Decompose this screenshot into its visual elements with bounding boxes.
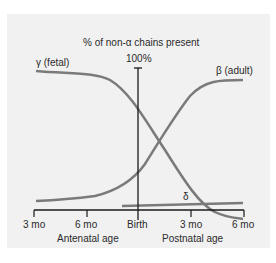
chart-title: % of non-α chains present xyxy=(83,37,199,48)
beta-label: β (adult) xyxy=(216,65,253,76)
tick-label-6mo-post: 6 mo xyxy=(232,219,254,230)
beta-curve xyxy=(36,80,243,201)
antenatal-group-label: Antenatal age xyxy=(57,233,119,244)
y-top-label: 100% xyxy=(126,53,152,64)
tick-label-6mo-ante: 6 mo xyxy=(75,219,97,230)
postnatal-group-label: Postnatal age xyxy=(162,233,223,244)
delta-curve xyxy=(122,203,243,206)
gamma-label: γ (fetal) xyxy=(36,57,69,68)
delta-label: δ xyxy=(183,191,189,202)
tick-label-birth: Birth xyxy=(127,219,148,230)
tick-label-3mo-ante: 3 mo xyxy=(23,219,45,230)
gamma-curve xyxy=(36,71,243,219)
tick-label-3mo-post: 3 mo xyxy=(180,219,202,230)
